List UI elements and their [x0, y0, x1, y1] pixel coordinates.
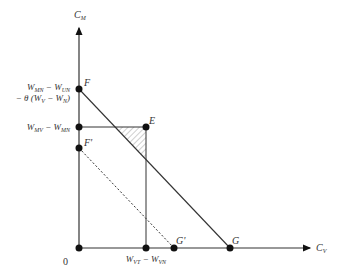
label-f-prime: F' — [83, 137, 93, 148]
diagram-canvas: CM CV 0 F F' E G' G WMN − WUN − θ (WV − … — [0, 0, 346, 275]
point-origin — [76, 245, 83, 252]
fprime-gprime-line — [79, 148, 174, 248]
point-e-level-x — [143, 245, 150, 252]
origin-label: 0 — [63, 256, 68, 267]
y-axis-label: CM — [74, 9, 87, 21]
y-tick-f-line2: − θ (WV − WN) — [16, 93, 70, 104]
y-tick-f-line1: WMN − WUN — [27, 82, 71, 93]
point-e-level-y — [76, 124, 83, 131]
y-tick-e-level: WMV − WMN — [27, 122, 71, 133]
point-f-prime — [76, 145, 83, 152]
label-e: E — [148, 115, 155, 126]
label-g-prime: G' — [176, 235, 186, 246]
x-tick-e-level: WVT − WVN — [126, 254, 167, 265]
label-f: F — [83, 77, 91, 88]
point-f — [76, 86, 83, 93]
fg-line — [79, 89, 230, 248]
x-axis-label: CV — [316, 242, 328, 254]
label-g: G — [232, 235, 239, 246]
